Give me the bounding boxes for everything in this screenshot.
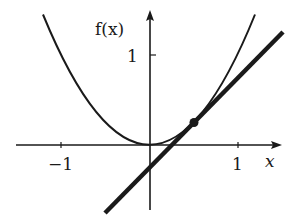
y-axis-label: f(x) [95,19,124,39]
y-tick-label-1: 1 [127,46,138,66]
plot-canvas: f(x) x −1 1 1 [0,0,301,222]
x-tick-label-1: 1 [232,154,243,174]
x-axis-label: x [265,151,275,171]
parabola-curve [43,15,255,145]
tangent-point [190,118,199,127]
x-tick-label-neg1: −1 [48,154,73,174]
